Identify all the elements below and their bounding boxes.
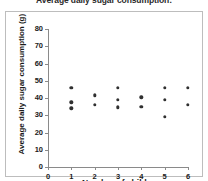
y-tick-label: 10 xyxy=(35,146,43,154)
plot-area: 01020304050607080 0123456 xyxy=(48,29,188,167)
y-tick-mark xyxy=(45,46,48,47)
y-axis-title: Average daily sugar consumption (g) xyxy=(17,15,26,155)
x-tick-mark-5 xyxy=(165,167,166,170)
x-tick-label-0: 0 xyxy=(46,173,50,181)
data-point xyxy=(163,115,166,118)
y-tick-mark xyxy=(45,133,48,134)
y-tick-label: 20 xyxy=(35,129,43,137)
x-tick-mark-2 xyxy=(95,167,96,170)
x-tick-label-2: 2 xyxy=(93,173,97,181)
y-tick-mark xyxy=(45,115,48,116)
x-tick-mark-1 xyxy=(71,167,72,170)
y-tick-label: 60 xyxy=(35,60,43,68)
x-tick-mark-6 xyxy=(188,167,189,170)
y-tick-mark xyxy=(45,150,48,151)
y-tick-label: 70 xyxy=(35,43,43,51)
x-tick-label-1: 1 xyxy=(69,173,73,181)
plot-card: Average daily sugar consumption (g) Numb… xyxy=(5,11,203,177)
y-tick-label: 50 xyxy=(35,77,43,85)
y-tick-label: 40 xyxy=(35,94,43,102)
x-tick-label-3: 3 xyxy=(116,173,120,181)
x-tick-label-4: 4 xyxy=(139,173,143,181)
x-tick-mark-3 xyxy=(118,167,119,170)
y-tick-mark xyxy=(45,29,48,30)
data-point xyxy=(116,86,119,89)
y-tick-label: 80 xyxy=(35,25,43,33)
scatter-chart-figure: Average daily sugar consumption: Average… xyxy=(0,0,208,181)
x-tick-mark-0 xyxy=(48,167,49,170)
data-point xyxy=(140,105,143,108)
y-tick-label: 0 xyxy=(39,163,43,171)
data-point xyxy=(70,86,73,89)
data-point xyxy=(93,94,96,97)
y-tick-label: 30 xyxy=(35,112,43,120)
data-point xyxy=(70,101,73,104)
x-axis-title: Number of children xyxy=(36,178,206,181)
x-tick-label-5: 5 xyxy=(163,173,167,181)
data-point xyxy=(163,86,166,89)
data-point xyxy=(186,86,189,89)
x-tick-label-6: 6 xyxy=(186,173,190,181)
data-point xyxy=(116,106,119,109)
x-tick-mark-4 xyxy=(141,167,142,170)
chart-title: Average daily sugar consumption: xyxy=(0,0,208,6)
data-point xyxy=(140,95,143,98)
data-point xyxy=(163,98,166,101)
data-point xyxy=(116,98,119,101)
data-point xyxy=(70,107,73,110)
data-point xyxy=(93,103,96,106)
y-tick-mark xyxy=(45,98,48,99)
y-axis-line xyxy=(48,29,49,168)
data-point xyxy=(186,103,189,106)
y-tick-mark xyxy=(45,64,48,65)
y-tick-mark xyxy=(45,81,48,82)
